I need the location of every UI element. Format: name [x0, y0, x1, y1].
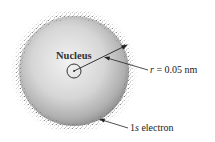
electron-suffix: electron: [139, 122, 174, 133]
electron-label: 1s electron: [130, 123, 174, 133]
nucleus-label: Nucleus: [56, 51, 92, 62]
radius-value: = 0.05 nm: [154, 64, 197, 75]
radius-label: r = 0.05 nm: [150, 65, 197, 75]
